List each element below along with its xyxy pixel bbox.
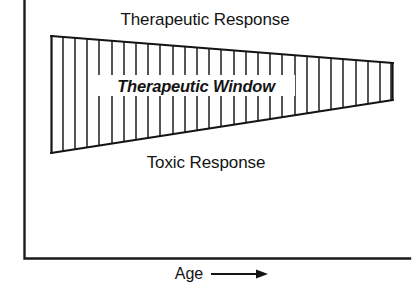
therapeutic-window-figure: Therapeutic Response Therapeutic Window … [0,0,420,288]
arrow-right-icon [256,270,268,279]
x-axis-label: Age [175,265,204,282]
figure-canvas: Therapeutic Response Therapeutic Window … [0,0,420,288]
toxic-response-line [51,100,393,153]
therapeutic-response-label: Therapeutic Response [120,10,289,29]
therapeutic-window-label: Therapeutic Window [117,77,276,95]
x-axis-label-group: Age [175,265,268,282]
toxic-response-label: Toxic Response [147,153,266,172]
therapeutic-response-line [51,36,393,63]
